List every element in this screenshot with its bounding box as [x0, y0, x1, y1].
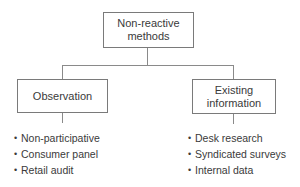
root-node-box: Non-reactive methods: [103, 12, 194, 48]
existing-information-items-list: • Desk research • Syndicated surveys • I…: [188, 130, 286, 178]
list-item-label: Internal data: [195, 164, 253, 176]
bullet-icon: •: [14, 130, 17, 146]
list-item: • Non-participative: [14, 130, 100, 146]
left-branch-connector-line: [62, 65, 63, 79]
bullet-icon: •: [14, 146, 17, 162]
existing-information-node-box: Existing information: [192, 79, 276, 114]
existing-information-list-stub-line: [233, 114, 234, 124]
existing-information-node-label: Existing information: [207, 84, 261, 110]
bullet-icon: •: [188, 146, 191, 162]
root-connector-line: [147, 48, 148, 66]
observation-node-box: Observation: [17, 79, 108, 113]
bullet-icon: •: [188, 130, 191, 146]
list-item: • Internal data: [188, 162, 286, 178]
list-item: • Desk research: [188, 130, 286, 146]
list-item: • Consumer panel: [14, 146, 100, 162]
list-item-label: Desk research: [195, 132, 263, 144]
observation-list-stub-line: [62, 113, 63, 123]
bullet-icon: •: [188, 162, 191, 178]
observation-node-label: Observation: [33, 90, 92, 103]
list-item-label: Retail audit: [21, 164, 74, 176]
list-item-label: Non-participative: [21, 132, 100, 144]
list-item: • Syndicated surveys: [188, 146, 286, 162]
branch-horizontal-line: [62, 65, 234, 66]
list-item: • Retail audit: [14, 162, 100, 178]
list-item-label: Syndicated surveys: [195, 148, 286, 160]
root-node-label: Non-reactive methods: [117, 17, 179, 43]
right-branch-connector-line: [233, 65, 234, 79]
bullet-icon: •: [14, 162, 17, 178]
observation-items-list: • Non-participative • Consumer panel • R…: [14, 130, 100, 178]
list-item-label: Consumer panel: [21, 148, 98, 160]
